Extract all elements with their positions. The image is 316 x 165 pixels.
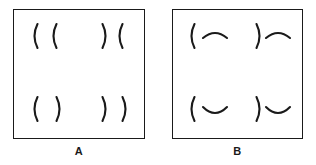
- arc-open-right: [35, 97, 38, 121]
- panel-a-quadrant-top-left: [35, 24, 57, 48]
- arc-open-right: [35, 24, 38, 48]
- arc-open-left: [257, 24, 260, 48]
- arc-open-down: [266, 33, 290, 38]
- arc-open-down: [203, 33, 227, 38]
- panel-a-contents: [13, 9, 145, 139]
- arc-open-left: [257, 97, 260, 121]
- arc-open-left: [103, 97, 106, 121]
- panel-b: [172, 9, 303, 139]
- arc-open-right: [120, 24, 123, 48]
- arc-open-up: [203, 107, 227, 113]
- arc-open-left: [57, 97, 60, 121]
- arc-open-left: [123, 97, 126, 121]
- arc-open-right: [192, 24, 195, 48]
- arc-open-right: [54, 24, 57, 48]
- panel-a-quadrant-top-right: [103, 24, 123, 48]
- panel-b-quadrant-top-left: [192, 24, 228, 48]
- panel-a: [13, 9, 145, 139]
- arc-open-up: [266, 107, 290, 113]
- arc-open-right: [192, 97, 195, 121]
- panel-b-label: B: [172, 144, 303, 158]
- panel-a-label: A: [13, 144, 145, 158]
- panel-a-quadrant-bottom-right: [103, 97, 126, 121]
- panel-b-quadrant-bottom-right: [257, 97, 291, 121]
- figure-root: A B: [0, 0, 316, 165]
- panel-a-quadrant-bottom-left: [35, 97, 60, 121]
- panel-b-quadrant-bottom-left: [192, 97, 228, 121]
- arc-open-left: [103, 24, 106, 48]
- panel-b-contents: [172, 9, 303, 139]
- panel-b-quadrant-top-right: [257, 24, 291, 48]
